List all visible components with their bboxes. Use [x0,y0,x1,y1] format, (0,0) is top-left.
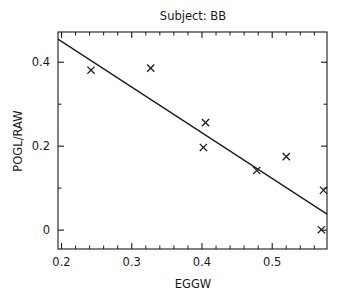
y-axis-tick-labels: 00.20.4 [32,55,50,237]
y-tick-label: 0 [43,223,50,237]
y-axis-major-ticks [58,62,327,230]
data-point-marker [283,153,290,160]
x-axis-title: EGGW [175,277,211,291]
scatter-plot-figure: 0.20.30.40.5 00.20.4 Subject: BB EGGW PO… [0,0,349,306]
data-point-marker [87,67,94,74]
data-point-marker [202,119,209,126]
x-tick-label: 0.3 [123,255,141,269]
data-point-marker [147,64,154,71]
x-axis-minor-ticks [76,32,315,249]
x-axis-tick-labels: 0.20.30.40.5 [52,255,281,269]
y-axis-title: POGL/RAW [11,110,25,171]
data-point-marker [320,187,327,194]
linear-fit-line [58,39,327,214]
axis-frame-rect [58,32,327,249]
y-tick-label: 0.2 [32,139,50,153]
x-axis-major-ticks [62,32,273,249]
x-tick-label: 0.2 [52,255,70,269]
axes-frame [58,32,327,249]
data-point-markers [87,64,327,233]
regression-line [58,39,327,214]
y-tick-label: 0.4 [32,55,50,69]
plot-canvas: 0.20.30.40.5 00.20.4 Subject: BB EGGW PO… [0,0,349,306]
chart-title: Subject: BB [160,9,226,23]
data-point-marker [200,144,207,151]
x-tick-label: 0.5 [263,255,281,269]
y-axis-minor-ticks [58,104,327,188]
x-tick-label: 0.4 [193,255,211,269]
